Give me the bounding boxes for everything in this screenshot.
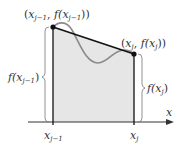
left-height-label: f(xj−1) (7, 71, 39, 85)
left-point (50, 24, 55, 29)
right-point-label: (xj, f(xj)) (121, 37, 166, 51)
left-height-brace (42, 27, 49, 122)
x-axis-arrow-icon (166, 119, 174, 125)
right-height-label: f(xj) (146, 82, 168, 96)
left-point-label: (xj−1, f(xj−1)) (24, 8, 90, 22)
right-height-brace (138, 54, 145, 122)
trapezoid-diagram: (xj−1, f(xj−1)) (xj, f(xj)) f(xj−1) f(xj… (0, 0, 187, 150)
right-point (131, 51, 136, 56)
tick-label-left: xj−1 (44, 129, 63, 143)
x-axis-label: x (166, 106, 173, 119)
tick-label-right: xj (130, 129, 139, 143)
